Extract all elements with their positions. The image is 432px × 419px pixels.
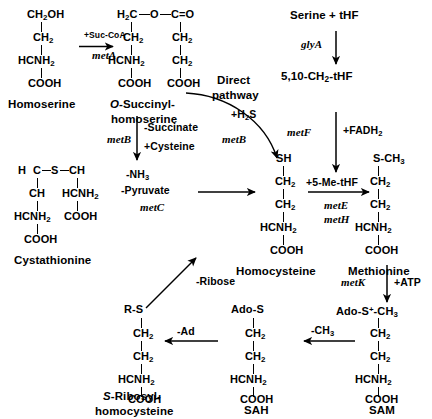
sah-label: SAH	[244, 404, 269, 416]
metb-gene-label-upper: metB	[107, 133, 131, 145]
cystathionine-bond-C-S	[42, 170, 51, 171]
sribosyl-line-1: CH2	[133, 328, 154, 342]
ad-out-label: -Ad	[177, 325, 195, 337]
sah-line-0: Ado-S	[231, 304, 264, 315]
sam-line-0: Ado-S+-CH3	[336, 304, 398, 320]
osuccinyl-ester-oxygen: O	[150, 9, 159, 20]
meth-gene-label: metH	[324, 213, 349, 225]
arrow-sribosyl-to-homocysteine	[146, 258, 196, 308]
osuccinyl-left-line-2: HCNH2	[108, 55, 145, 69]
pathway-diagram: CH2OH CH2 HCNH2 COOH Homoserine +Suc-CoA…	[0, 0, 432, 419]
cystathionine-right-line-0: HCNH2	[62, 188, 99, 202]
sam-line-2: CH2	[370, 351, 391, 365]
mete-gene-label: metE	[324, 199, 348, 211]
sribosyl-line-3: HCNH2	[118, 374, 155, 388]
pyruvate-out-label: -Pyruvate	[121, 184, 170, 196]
sribosyl-label-italic-prefix: S	[103, 390, 111, 402]
suc-coa-cofactor-label: +Suc-CoA	[84, 30, 126, 40]
homoserine-formula-line-0: CH2OH	[27, 9, 64, 23]
metc-gene-label: metC	[140, 201, 164, 213]
homoserine-formula-line-3: COOH	[28, 78, 61, 89]
methionine-line-0: S-CH3	[373, 153, 405, 167]
cystathionine-top-H: H	[18, 165, 26, 176]
homocysteine-line-3: HCNH2	[260, 222, 297, 236]
atp-in-label: +ATP	[394, 276, 421, 288]
osuccinyl-left-line-0: H2C	[117, 9, 138, 23]
serine-thf-label: Serine + tHF	[290, 9, 359, 21]
sah-line-2: CH2	[245, 351, 266, 365]
cystathionine-left-line-2: COOH	[24, 234, 57, 245]
homoserine-label: Homoserine	[8, 98, 75, 110]
homoserine-formula-line-2: HCNH2	[18, 55, 55, 69]
glya-gene-label: glyA	[301, 38, 322, 50]
metb-gene-label-direct: metB	[222, 133, 246, 145]
homocysteine-line-0: SH	[276, 153, 291, 164]
sah-line-1: CH2	[245, 328, 266, 342]
sam-charge: +	[369, 305, 374, 314]
arrow-direct-pathway	[186, 93, 277, 158]
osuccinyl-left-line-3: COOH	[118, 78, 151, 89]
osuccinyl-label-italic-prefix: O	[110, 98, 119, 110]
ch3-out-label: -CH3	[311, 324, 334, 338]
sribosyl-label-line1: S-Ribosyl-	[103, 390, 161, 402]
cystathionine-left-line-1: HCNH2	[14, 211, 51, 225]
methionine-line-2: CH2	[370, 199, 391, 213]
succinate-out-label: -Succinate	[144, 121, 198, 133]
sam-label: SAM	[369, 404, 395, 416]
homocysteine-line-1: CH2	[275, 176, 296, 190]
osuccinyl-right-line-2: CH2	[172, 55, 193, 69]
sribosyl-label-line2: homocysteine	[95, 405, 174, 417]
cystathionine-bond-S-CH	[60, 170, 69, 171]
nh3-out-label: -NH3	[126, 168, 149, 182]
cysteine-in-label: +Cysteine	[144, 140, 195, 152]
osuccinyl-left-line-1: CH2	[123, 32, 144, 46]
homoserine-formula-line-1: CH2	[33, 32, 54, 46]
direct-pathway-label-line2: pathway	[212, 89, 259, 101]
h2s-in-label: +H2S	[231, 108, 256, 122]
osuccinyl-ester-bond-right	[160, 14, 171, 15]
cystathionine-right-line-1: COOH	[64, 211, 97, 222]
osuccinyl-ester-bond-left	[139, 14, 150, 15]
sribosyl-line-0: R-S	[124, 304, 143, 315]
homocysteine-line-2: CH2	[275, 199, 296, 213]
methionine-line-3: HCNH2	[355, 222, 392, 236]
methionine-line-4: COOH	[365, 245, 398, 256]
sribosyl-line-2: CH2	[133, 351, 154, 365]
cystathionine-left-line-0: CH	[29, 188, 45, 199]
cystathionine-label: Cystathionine	[14, 254, 91, 266]
direct-pathway-label-line1: Direct	[217, 74, 250, 86]
osuccinyl-right-line-1: CH2	[172, 32, 193, 46]
ribose-out-label: -Ribose	[196, 275, 235, 287]
methionine-line-1: CH2	[370, 176, 391, 190]
cystathionine-top-CH: CH	[69, 165, 85, 176]
homocysteine-line-4: COOH	[270, 245, 303, 256]
cystathionine-top-S: S	[51, 165, 58, 176]
sam-line-3: HCNH2	[355, 374, 392, 388]
osuccinyl-right-line-3: COOH	[167, 78, 200, 89]
metk-gene-label: metK	[341, 276, 365, 288]
osuccinyl-right-line-0: C=O	[171, 9, 194, 20]
5methf-in-label: +5-Me-tHF	[306, 176, 358, 188]
sah-line-3: HCNH2	[230, 374, 267, 388]
osuccinyl-label-line1: O-Succinyl-	[110, 98, 175, 110]
sam-line-1: CH2	[370, 328, 391, 342]
homocysteine-label: Homocysteine	[236, 265, 316, 277]
fadh2-in-label: +FADH2	[343, 124, 383, 138]
metf-gene-label: metF	[287, 126, 311, 138]
cystathionine-top-C: C	[33, 165, 41, 176]
methylene-thf-label: 5,10-CH2-tHF	[281, 70, 353, 84]
